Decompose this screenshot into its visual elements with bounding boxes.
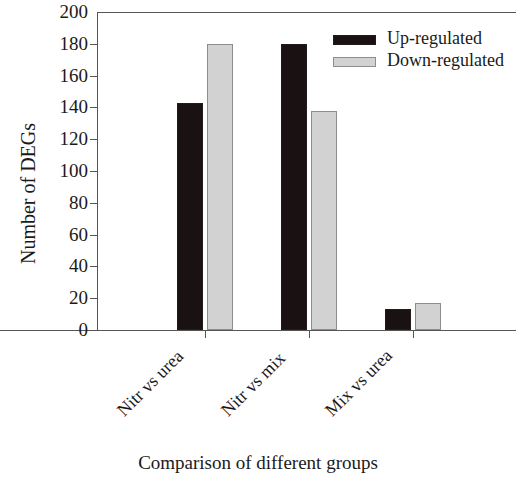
y-axis-tick-mark [90, 171, 98, 172]
bar-down-regulated [311, 111, 337, 330]
y-axis-tick-label: 40 [42, 256, 88, 275]
x-axis-title: Comparison of different groups [0, 452, 516, 474]
y-axis-tick-label: 20 [42, 288, 88, 307]
y-axis-tick-label: 140 [42, 97, 88, 116]
y-axis-tick-mark [90, 203, 98, 204]
plot-frame-top [97, 12, 516, 13]
y-axis-tick-label: 160 [42, 66, 88, 85]
y-axis-tick-mark [90, 266, 98, 267]
y-axis-tick-label: 200 [42, 2, 88, 21]
y-axis-tick-mark [90, 44, 98, 45]
legend-label: Up-regulated [387, 28, 482, 49]
y-axis-tick-label: 60 [42, 225, 88, 244]
legend-swatch-down-regulated [333, 57, 376, 67]
x-axis-tick-mark [205, 330, 206, 338]
y-axis-tick-mark [90, 298, 98, 299]
bar-down-regulated [207, 44, 233, 330]
y-axis-tick-label: 80 [42, 193, 88, 212]
y-axis-tick-label: 100 [42, 161, 88, 180]
bar-up-regulated [281, 44, 307, 330]
y-axis-tick-mark [90, 107, 98, 108]
x-axis-tick-mark [413, 330, 414, 338]
bar-chart: 020406080100120140160180200 Number of DE… [0, 0, 516, 483]
y-axis-tick-mark [90, 139, 98, 140]
bar-up-regulated [177, 103, 203, 330]
y-axis-tick-labels: 020406080100120140160180200 [36, 0, 88, 345]
legend-label: Down-regulated [387, 50, 504, 71]
y-axis-tick-label: 120 [42, 129, 88, 148]
y-axis-tick-label: 180 [42, 34, 88, 53]
bar-down-regulated [415, 303, 441, 330]
x-axis-category-label: Mix vs urea [321, 345, 397, 421]
legend-swatch-up-regulated [333, 35, 376, 45]
y-axis-title: Number of DEGs [17, 74, 40, 314]
bar-up-regulated [385, 309, 411, 330]
x-axis-category-label: Nitr vs mix [217, 348, 290, 421]
x-axis-tick-mark [309, 330, 310, 338]
y-axis-tick-mark [90, 235, 98, 236]
y-axis-tick-label: 0 [42, 320, 88, 339]
x-axis-category-label: Nitr vs urea [113, 346, 188, 421]
y-axis-tick-mark [90, 76, 98, 77]
